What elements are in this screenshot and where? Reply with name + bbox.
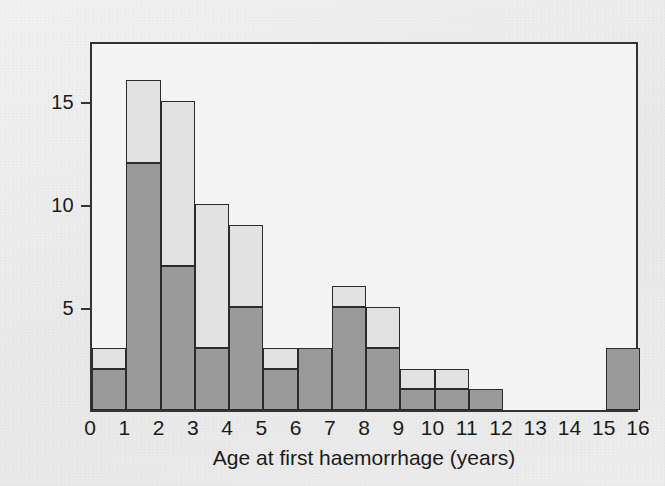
bar-segment-light (435, 369, 469, 390)
x-tick-label: 13 (524, 416, 547, 440)
x-tick-label: 8 (358, 416, 370, 440)
histogram-bar (469, 389, 503, 410)
histogram-bar (161, 101, 195, 410)
y-tick-mark (81, 308, 90, 310)
bar-segment-dark (606, 348, 640, 410)
bar-segment-dark (298, 348, 332, 410)
x-axis-title: Age at first haemorrhage (years) (90, 446, 638, 470)
x-tick-label: 5 (255, 416, 267, 440)
x-tick-label: 15 (592, 416, 615, 440)
plot-area (92, 44, 636, 410)
bar-segment-light (92, 348, 126, 369)
histogram-bar (263, 348, 297, 410)
x-tick-label: 1 (118, 416, 130, 440)
x-tick-label: 12 (489, 416, 512, 440)
x-tick-label: 16 (626, 416, 649, 440)
bar-segment-dark (469, 389, 503, 410)
plot-frame (90, 42, 638, 412)
x-tick-label: 0 (84, 416, 96, 440)
y-tick-label: 15 (28, 91, 74, 114)
bar-segment-light (195, 204, 229, 348)
bar-segment-dark (229, 307, 263, 410)
y-tick-label: 5 (28, 297, 74, 320)
histogram-bar (332, 286, 366, 410)
histogram-bar (298, 348, 332, 410)
histogram-bar (400, 369, 434, 410)
histogram-bar (229, 225, 263, 411)
bar-segment-dark (366, 348, 400, 410)
bar-segment-dark (161, 266, 195, 410)
bar-segment-light (400, 369, 434, 390)
histogram-bar (366, 307, 400, 410)
x-tick-label: 6 (290, 416, 302, 440)
x-tick-label: 2 (153, 416, 165, 440)
bar-segment-dark (263, 369, 297, 410)
bar-segment-dark (126, 163, 160, 410)
bar-segment-dark (400, 389, 434, 410)
bar-segment-dark (435, 389, 469, 410)
x-tick-label: 7 (324, 416, 336, 440)
bar-segment-dark (332, 307, 366, 410)
y-tick-label: 10 (28, 194, 74, 217)
x-tick-label: 9 (392, 416, 404, 440)
x-tick-label: 4 (221, 416, 233, 440)
bar-segment-dark (195, 348, 229, 410)
bar-segment-dark (92, 369, 126, 410)
bar-segment-light (126, 80, 160, 162)
y-tick-mark (81, 102, 90, 104)
x-tick-label: 11 (456, 416, 478, 440)
bar-segment-light (161, 101, 195, 266)
x-tick-label: 10 (421, 416, 444, 440)
histogram-bar (195, 204, 229, 410)
histogram-bar (435, 369, 469, 410)
histogram-bar (92, 348, 126, 410)
bar-segment-light (366, 307, 400, 348)
bar-segment-light (332, 286, 366, 307)
histogram-bar (126, 80, 160, 410)
figure-page: Number of patients 51015 012345678910111… (0, 0, 665, 486)
bar-segment-light (229, 225, 263, 307)
histogram-bar (606, 348, 640, 410)
bar-segment-light (263, 348, 297, 369)
x-tick-label: 14 (558, 416, 581, 440)
y-tick-mark (81, 205, 90, 207)
x-tick-label: 3 (187, 416, 199, 440)
